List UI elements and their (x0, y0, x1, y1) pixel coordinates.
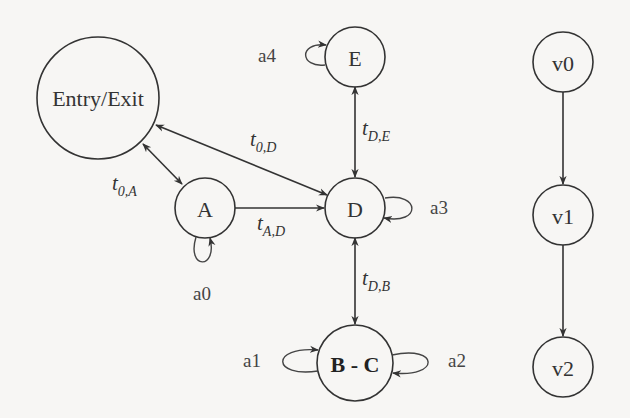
node-label-a: A (197, 197, 213, 222)
node-d: D (325, 178, 385, 238)
loop-a2 (392, 353, 428, 373)
node-label-v1: v1 (552, 204, 574, 229)
state-diagram: Entry/Exit E A D B - C v0 v1 v2 t0,A t0, (0, 0, 630, 418)
node-v0: v0 (533, 32, 593, 92)
node-label-v2: v2 (552, 356, 574, 381)
node-v2: v2 (533, 337, 593, 397)
node-a: A (175, 178, 235, 238)
node-label-d: D (347, 197, 363, 222)
loop-label-a2: a2 (448, 350, 466, 371)
node-label-entry-exit: Entry/Exit (52, 86, 144, 111)
edge-label-t0a: t0,A (112, 171, 137, 199)
edge-label-tdb: tD,B (362, 266, 390, 294)
node-label-v0: v0 (552, 51, 574, 76)
loop-label-a0: a0 (193, 283, 211, 304)
edge-entry-a (143, 144, 182, 184)
loop-a4 (306, 45, 326, 65)
edge-entry-d (156, 125, 327, 195)
edge-label-tad: tA,D (257, 211, 285, 239)
node-e: E (325, 27, 385, 87)
loop-a3 (384, 197, 412, 219)
loop-a1 (283, 350, 318, 372)
node-b-c: B - C (317, 325, 393, 401)
loop-label-a4: a4 (258, 45, 276, 66)
edge-label-t0d: t0,D (250, 127, 276, 155)
loop-label-a3: a3 (430, 197, 448, 218)
loop-label-a1: a1 (243, 350, 261, 371)
node-label-b-c: B - C (331, 352, 380, 377)
node-v1: v1 (533, 185, 593, 245)
node-entry-exit: Entry/Exit (37, 37, 159, 159)
node-label-e: E (348, 46, 361, 71)
loop-a0 (194, 237, 211, 262)
edge-label-tde: tD,E (362, 116, 390, 144)
